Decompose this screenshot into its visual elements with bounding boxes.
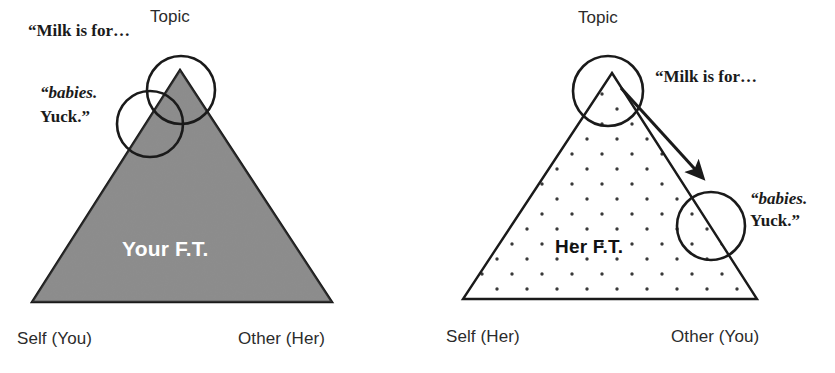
her-face-threat-triangle: [463, 73, 757, 299]
babies-quote-text: “babies.: [750, 189, 807, 208]
yuck-quote-label: Yuck.”: [750, 212, 800, 230]
topic-label: Topic: [150, 8, 190, 26]
babies-quote-label: “babies.: [750, 190, 807, 208]
your-face-threat-triangle: [32, 70, 332, 302]
right-diagram-graphics: [418, 0, 835, 373]
right-diagram-panel: Topic “Milk is for… “babies. Yuck.” Her …: [418, 0, 835, 373]
other-corner-label: Other (Her): [238, 330, 325, 348]
milk-quote-label: “Milk is for…: [28, 22, 130, 40]
other-corner-label: Other (You): [671, 328, 759, 346]
self-corner-label: Self (You): [17, 330, 92, 348]
left-diagram-panel: Topic “Milk is for… “babies. Yuck.” Your…: [0, 0, 418, 373]
your-ft-label: Your F.T.: [122, 238, 209, 261]
left-diagram-graphics: [0, 0, 418, 373]
babies-quote-text: “babies.: [40, 83, 97, 102]
babies-quote-label: “babies.: [40, 84, 97, 102]
figure-root: Topic “Milk is for… “babies. Yuck.” Your…: [0, 0, 835, 373]
her-ft-label: Her F.T.: [555, 237, 623, 258]
self-corner-label: Self (Her): [446, 328, 520, 346]
yuck-quote-label: Yuck.”: [40, 108, 90, 126]
topic-label: Topic: [578, 9, 618, 27]
milk-quote-label: “Milk is for…: [655, 68, 757, 86]
